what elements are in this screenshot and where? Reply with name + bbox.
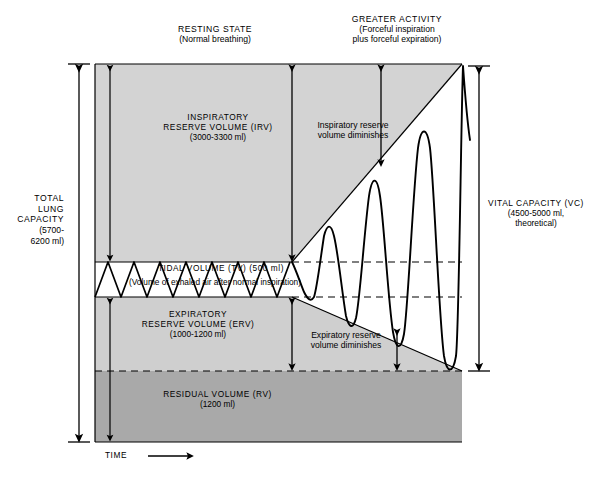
tlc-line1: TOTAL — [0, 193, 64, 204]
irv-dim-line1: Inspiratory reserve — [298, 120, 408, 130]
erv-diminishes-label: Expiratory reserve volume diminishes — [300, 330, 392, 350]
tlc-measure-arrow — [68, 64, 90, 442]
vc-line1: VITAL CAPACITY (VC) — [484, 198, 588, 208]
vc-line2: (4500-5000 ml, — [484, 208, 588, 218]
vc-line3: theoretical) — [484, 218, 588, 228]
tv-line1: TIDAL VOLUME (TV) (500 ml) — [96, 264, 346, 274]
irv-region — [95, 64, 462, 262]
irv-diminishes-label: Inspiratory reserve volume diminishes — [298, 120, 408, 140]
vital-capacity-label: VITAL CAPACITY (VC) (4500-5000 ml, theor… — [484, 198, 588, 228]
erv-line3: (1000-1200 ml) — [118, 330, 278, 340]
header-resting-line2: (Normal breathing) — [135, 34, 295, 44]
erv-band-label: EXPIRATORY RESERVE VOLUME (ERV) (1000-12… — [118, 310, 278, 339]
tlc-line2: LUNG — [0, 204, 64, 215]
header-resting-state: RESTING STATE (Normal breathing) — [135, 24, 295, 44]
tlc-line3: CAPACITY — [0, 214, 64, 225]
spirogram-svg — [0, 0, 589, 485]
time-axis-label: TIME — [105, 451, 145, 461]
erv-dim-line2: volume diminishes — [300, 340, 392, 350]
total-lung-capacity-label: TOTAL LUNG CAPACITY (5700- 6200 ml) — [0, 193, 64, 247]
irv-band-label: INSPIRATORY RESERVE VOLUME (IRV) (3000-3… — [128, 113, 308, 142]
tidal-volume-label: TIDAL VOLUME (TV) (500 ml) — [96, 264, 346, 274]
tlc-line4: (5700- — [0, 225, 64, 236]
header-greater-activity: GREATER ACTIVITY (Forceful inspiration p… — [312, 14, 482, 44]
irv-line3: (3000-3300 ml) — [128, 133, 308, 143]
header-activity-line3: plus forceful expiration) — [312, 34, 482, 44]
rv-band-label: RESIDUAL VOLUME (RV) (1200 ml) — [130, 390, 305, 410]
header-activity-line1: GREATER ACTIVITY — [312, 14, 482, 24]
header-activity-line2: (Forceful inspiration — [312, 24, 482, 34]
tv-line2: (Volume of exhaled air after normal insp… — [84, 278, 346, 288]
erv-dim-line1: Expiratory reserve — [300, 330, 392, 340]
rv-line2: (1200 ml) — [130, 400, 305, 410]
figure-root: RESTING STATE (Normal breathing) GREATER… — [0, 0, 589, 485]
tidal-volume-sublabel: (Volume of exhaled air after normal insp… — [84, 278, 346, 288]
irv-dim-line2: volume diminishes — [298, 130, 408, 140]
time-label-text: TIME — [105, 450, 127, 460]
header-resting-line1: RESTING STATE — [135, 24, 295, 34]
tlc-line5: 6200 ml) — [0, 236, 64, 247]
